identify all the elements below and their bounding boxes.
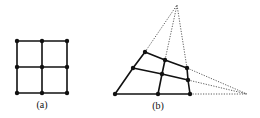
panel-a-label: (a) [36, 99, 47, 110]
panel-b-label: (b) [152, 100, 164, 111]
panel-b-grid [115, 52, 190, 94]
panel-b-points [113, 50, 192, 96]
